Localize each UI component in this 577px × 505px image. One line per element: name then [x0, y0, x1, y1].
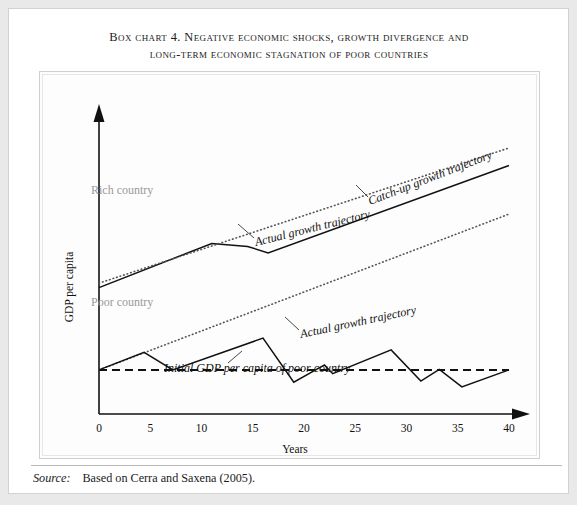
y-axis-title: GDP per capita [63, 252, 76, 322]
label-poor-country: Poor country [91, 295, 153, 309]
x-tick-label: 25 [350, 422, 362, 434]
series-layer [99, 148, 509, 387]
x-tick-label: 30 [401, 422, 413, 434]
x-tick-label: 5 [147, 422, 153, 434]
box-title-line-1: Box chart 4. Negative economic shocks, g… [49, 29, 529, 46]
source-divider [31, 465, 562, 466]
box-title-line-2: long-term economic stagnation of poor co… [49, 46, 529, 63]
y-axis [94, 104, 105, 414]
x-tick-label: 35 [452, 422, 464, 434]
x-tick-label: 15 [247, 422, 259, 434]
x-axis [99, 409, 530, 420]
chart-canvas: GDP per capita Years 0510152025303540 Ri… [40, 72, 539, 458]
x-tick-label: 40 [503, 422, 515, 434]
x-tick-labels: 0510152025303540 [96, 422, 515, 434]
box-title: Box chart 4. Negative economic shocks, g… [49, 29, 529, 63]
series-dotted [99, 214, 509, 370]
source-note: Source:Based on Cerra and Saxena (2005). [33, 471, 255, 486]
source-label: Source: [33, 471, 70, 485]
x-tick-label: 10 [196, 422, 208, 434]
label-rich-country: Rich country [91, 183, 153, 197]
x-tick-label: 20 [298, 422, 310, 434]
annotation-initial-gdp: Initial GDP per capita of poor country [163, 361, 351, 375]
box-card: Box chart 4. Negative economic shocks, g… [8, 8, 569, 494]
x-tick-label: 0 [96, 422, 102, 434]
x-axis-title: Years [282, 443, 308, 455]
page-background: Box chart 4. Negative economic shocks, g… [0, 0, 577, 505]
source-text: Based on Cerra and Saxena (2005). [82, 471, 255, 485]
annotation-poor-actual-growth: Actual growth trajectory [298, 303, 418, 342]
annotation-rich-actual-growth: Actual growth trajectory [252, 207, 372, 250]
chart-frame: GDP per capita Years 0510152025303540 Ri… [39, 71, 540, 459]
